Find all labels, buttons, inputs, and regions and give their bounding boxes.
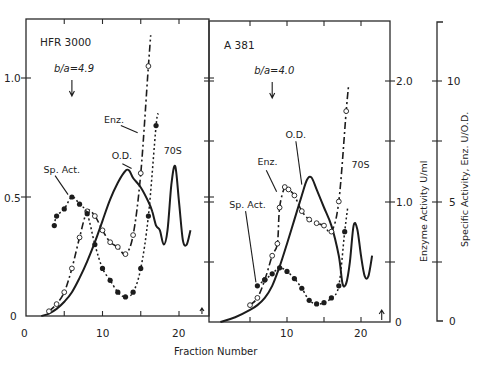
enz-open-circle-marker xyxy=(54,302,59,307)
x-axis-label: Fraction Number xyxy=(174,346,258,357)
enz-open-circle-marker xyxy=(270,253,275,258)
series-label: Enz. xyxy=(104,114,124,125)
right-panel: O.D.Enz.Sp. Act.70Sb/a=4.0 xyxy=(204,21,442,322)
specific-ytick-0: 0 xyxy=(449,315,456,327)
label-leader-line xyxy=(121,126,138,133)
enz-open-circle-marker xyxy=(329,229,334,234)
sp-act-filled-circle-marker xyxy=(100,266,105,271)
series-label: Enz. xyxy=(257,156,277,167)
sp-act-filled-circle-marker xyxy=(54,213,59,218)
enzyme-ytick-0: 0 xyxy=(395,316,402,328)
enz-open-circle-marker xyxy=(92,214,97,219)
fraction-arrow-icon xyxy=(200,308,204,314)
enz-open-circle-marker xyxy=(146,64,151,69)
sp-act-filled-circle-marker xyxy=(314,301,319,306)
specific-ytick-5: 5 xyxy=(449,196,456,208)
series-label: 70S xyxy=(351,159,369,170)
label-leader-line xyxy=(266,170,276,192)
enz-open-circle-marker xyxy=(322,223,327,228)
label-leader-line xyxy=(122,164,131,169)
sp-act-filled-circle-marker xyxy=(292,276,297,281)
enz-open-circle-marker xyxy=(277,205,282,210)
enzyme-ytick-1: 1.0 xyxy=(396,196,413,208)
enz-open-circle-marker xyxy=(255,296,260,301)
left-xtick-0: 0 xyxy=(21,327,28,339)
enz-open-circle-marker xyxy=(47,309,52,314)
sp-act-filled-circle-marker xyxy=(284,269,289,274)
sp-act-filled-circle-marker xyxy=(277,265,282,270)
left-ytick-1: 1.0 xyxy=(4,72,21,84)
ba-ratio-annotation: b/a=4.0 xyxy=(254,65,294,76)
fraction-arrow-icon xyxy=(379,310,384,320)
enz-open-circle-marker xyxy=(344,109,349,114)
series-enz-line xyxy=(250,87,348,305)
series-label: O.D. xyxy=(112,150,132,161)
enz-open-circle-marker xyxy=(77,235,82,240)
left-panel-title: HFR 3000 xyxy=(40,36,91,48)
label-leader-line xyxy=(55,176,68,195)
right-xtick-20: 20 xyxy=(354,327,367,339)
left-ytick-0: 0 xyxy=(10,310,17,322)
enz-open-circle-marker xyxy=(307,217,312,222)
enz-open-circle-marker xyxy=(138,171,143,176)
sp-act-filled-circle-marker xyxy=(321,300,326,305)
enz-open-circle-marker xyxy=(314,221,319,226)
label-leader-line xyxy=(296,141,302,184)
sp-act-filled-circle-marker xyxy=(108,278,113,283)
sp-act-filled-circle-marker xyxy=(307,298,312,303)
sp-act-filled-circle-marker xyxy=(92,242,97,247)
enz-open-circle-marker xyxy=(292,193,297,198)
right-xtick-10: 10 xyxy=(280,327,293,339)
specific-axis-label: Specific Activity, Enz. U/O.D. xyxy=(459,112,470,247)
enz-open-circle-marker xyxy=(275,241,280,246)
sp-act-filled-circle-marker xyxy=(131,290,136,295)
sp-act-filled-circle-marker xyxy=(146,213,151,218)
enz-open-circle-marker xyxy=(248,303,253,308)
series-label: O.D. xyxy=(286,129,306,140)
sp-act-filled-circle-marker xyxy=(299,286,304,291)
left-panel: Enz.O.D.Sp. Act.70Sb/a=4.9 xyxy=(21,19,214,316)
left-xtick-10: 10 xyxy=(96,327,109,339)
sp-act-filled-circle-marker xyxy=(342,229,347,234)
sp-act-filled-circle-marker xyxy=(62,206,67,211)
sp-act-filled-circle-marker xyxy=(52,223,57,228)
sp-act-filled-circle-marker xyxy=(69,194,74,199)
down-arrow-icon xyxy=(69,80,74,96)
right-panel-title: A 381 xyxy=(224,39,255,51)
enz-open-circle-marker xyxy=(108,240,113,245)
series-label: Sp. Act. xyxy=(229,199,265,210)
sp-act-filled-circle-marker xyxy=(262,277,267,282)
sp-act-filled-circle-marker xyxy=(77,202,82,207)
sp-act-filled-circle-marker xyxy=(255,283,260,288)
enzyme-ytick-2: 2.0 xyxy=(396,75,413,87)
series-label: 70S xyxy=(164,145,182,156)
sp-act-filled-circle-marker xyxy=(138,266,143,271)
enz-open-circle-marker xyxy=(286,187,291,192)
specific-ytick-10: 10 xyxy=(447,75,460,87)
ba-ratio-annotation: b/a=4.9 xyxy=(54,63,94,74)
sp-act-filled-circle-marker xyxy=(85,211,90,216)
enz-open-circle-marker xyxy=(62,290,67,295)
sp-act-filled-circle-marker xyxy=(123,294,128,299)
enz-open-circle-marker xyxy=(336,199,341,204)
enz-open-circle-marker xyxy=(123,252,128,257)
label-leader-line xyxy=(246,211,256,282)
left-xtick-20: 20 xyxy=(172,327,185,339)
enz-open-circle-marker xyxy=(115,245,120,250)
specific-activity-axis xyxy=(437,22,443,321)
enz-open-circle-marker xyxy=(70,266,75,271)
sp-act-filled-circle-marker xyxy=(336,283,341,288)
enz-open-circle-marker xyxy=(131,233,136,238)
sp-act-filled-circle-marker xyxy=(329,295,334,300)
sp-act-filled-circle-marker xyxy=(153,123,158,128)
left-ytick-05: 0.5 xyxy=(4,192,21,204)
enz-open-circle-marker xyxy=(299,209,304,214)
sucrose-gradient-chart: Enz.O.D.Sp. Act.70Sb/a=4.9 O.D.Enz.Sp. A… xyxy=(0,0,490,372)
sp-act-filled-circle-marker xyxy=(115,290,120,295)
series-label: Sp. Act. xyxy=(44,164,80,175)
down-arrow-icon xyxy=(270,82,275,98)
enzyme-axis-label: Enzyme Activity U/ml xyxy=(418,161,429,262)
sp-act-filled-circle-marker xyxy=(270,271,275,276)
enz-open-circle-marker xyxy=(100,228,105,233)
